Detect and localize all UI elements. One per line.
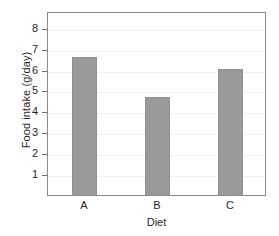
y-tick-mark [42,112,47,113]
y-tick-mark [42,154,47,155]
gridline [48,51,265,52]
y-tick-label: 7 [20,44,38,55]
gridline [48,30,265,31]
y-tick-label: 4 [20,106,38,117]
y-tick-mark [42,91,47,92]
bar-c [218,69,243,196]
bar-b [145,97,170,196]
y-tick-mark [42,50,47,51]
bar-a [72,57,97,196]
y-tick-mark [42,175,47,176]
y-tick-label: 2 [20,148,38,159]
y-tick-label: 3 [20,127,38,138]
bar-chart: Food intake (g/day) 12345678 ABC Diet [0,0,279,236]
y-tick-label: 6 [20,65,38,76]
y-tick-mark [42,71,47,72]
y-tick-mark [42,29,47,30]
x-axis-label: Diet [47,216,266,228]
y-tick-mark [42,133,47,134]
y-tick-label: 1 [20,169,38,180]
plot-area [47,12,266,196]
x-tick-label-c: C [210,200,250,211]
x-tick-label-b: B [137,200,177,211]
y-tick-label: 8 [20,23,38,34]
x-tick-label-a: A [64,200,104,211]
y-tick-label: 5 [20,85,38,96]
